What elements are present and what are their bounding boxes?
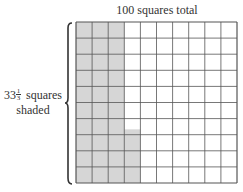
grid-diagram <box>0 0 243 192</box>
left-brace <box>65 23 72 184</box>
hundred-grid <box>76 22 237 183</box>
partial-shaded-column <box>124 129 140 183</box>
